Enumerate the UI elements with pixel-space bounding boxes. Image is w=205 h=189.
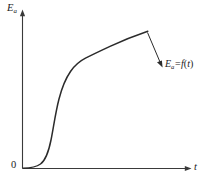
- figure-container: Ea t 0 Ea=f(t): [0, 0, 205, 189]
- y-axis-arrowhead: [20, 10, 25, 17]
- x-axis-arrowhead: [185, 166, 192, 171]
- annotation-arrowhead: [157, 60, 163, 67]
- annotation-leader-line: [148, 33, 161, 63]
- x-axis-label: t: [194, 162, 197, 173]
- origin-label: 0: [11, 160, 16, 171]
- curve-annotation-label: Ea=f(t): [165, 59, 193, 70]
- annotation-close-paren: ): [190, 58, 193, 69]
- data-curve-ea-of-t: [23, 31, 148, 168]
- y-axis-label-subscript: a: [13, 7, 16, 14]
- y-axis-label: Ea: [7, 3, 17, 15]
- figure-canvas: [0, 0, 205, 189]
- x-axis-label-symbol: t: [194, 161, 197, 172]
